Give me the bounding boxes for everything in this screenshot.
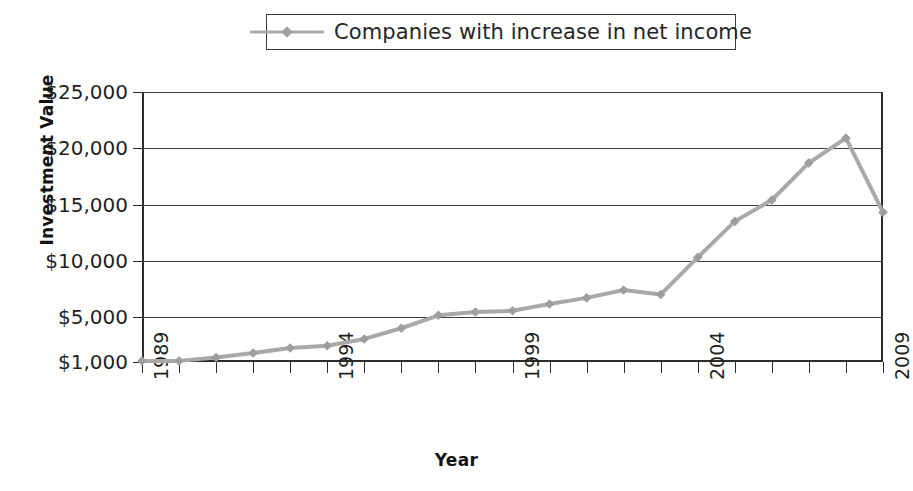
x-tick <box>624 362 625 373</box>
data-point-marker <box>211 353 221 363</box>
x-tick <box>475 362 476 373</box>
data-point-marker <box>471 307 481 317</box>
x-tick <box>253 362 254 373</box>
x-tick <box>772 362 773 373</box>
x-tick <box>735 362 736 373</box>
data-point-marker <box>434 311 444 321</box>
y-tick <box>133 317 142 318</box>
x-tick <box>401 362 402 373</box>
x-tick <box>846 362 847 373</box>
y-tick <box>133 92 142 93</box>
y-tick-label: $25,000 <box>45 80 128 104</box>
data-point-marker <box>359 334 369 344</box>
chart-legend: Companies with increase in net income <box>266 14 736 50</box>
x-tick <box>438 362 439 373</box>
x-tick <box>587 362 588 373</box>
data-point-marker <box>619 285 629 295</box>
legend-entry-0: Companies with increase in net income <box>250 20 752 44</box>
series-line <box>142 138 883 361</box>
x-tick <box>809 362 810 373</box>
x-tick <box>550 362 551 373</box>
data-point-marker <box>322 341 332 351</box>
plot-area: $1,000$5,000$10,000$15,000$20,000$25,000… <box>142 92 883 362</box>
x-tick <box>513 362 514 373</box>
x-tick <box>883 362 884 373</box>
x-tick <box>327 362 328 373</box>
y-tick-label: $20,000 <box>45 136 128 160</box>
y-tick-label: $5,000 <box>58 305 128 329</box>
data-point-marker <box>174 356 184 366</box>
data-point-marker <box>582 293 592 303</box>
x-tick <box>661 362 662 373</box>
y-tick-label: $1,000 <box>58 350 128 374</box>
data-point-marker <box>285 343 295 353</box>
x-axis-title: Year <box>0 450 913 470</box>
legend-line-diamond-icon <box>250 25 324 39</box>
y-tick-label: $10,000 <box>45 249 128 273</box>
x-tick <box>364 362 365 373</box>
x-tick-label: 2009 <box>891 332 913 380</box>
line-chart: Companies with increase in net income In… <box>0 0 913 491</box>
legend-label-0: Companies with increase in net income <box>324 20 752 44</box>
data-point-marker <box>137 356 147 366</box>
y-tick <box>133 205 142 206</box>
data-point-marker <box>545 299 555 309</box>
data-point-marker <box>248 348 258 358</box>
data-point-marker <box>508 306 518 316</box>
y-tick <box>133 148 142 149</box>
y-tick <box>133 261 142 262</box>
series-companies-with-increase-in-net-income <box>142 92 883 362</box>
x-tick <box>216 362 217 373</box>
x-tick <box>290 362 291 373</box>
data-point-marker <box>397 323 407 333</box>
x-tick <box>698 362 699 373</box>
y-tick-label: $15,000 <box>45 193 128 217</box>
